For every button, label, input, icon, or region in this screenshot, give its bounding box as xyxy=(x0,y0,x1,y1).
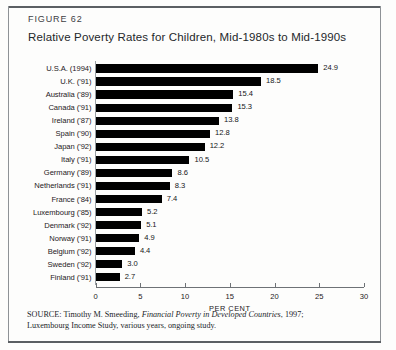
bar-value-label: 18.5 xyxy=(266,76,281,85)
bar-value-label: 24.9 xyxy=(323,63,338,72)
bar xyxy=(96,221,142,229)
category-label: Belgium ('92) xyxy=(20,247,92,256)
source-prefix: SOURCE: Timothy M. Smeeding, xyxy=(27,310,142,319)
bar-value-label: 15.4 xyxy=(238,89,253,98)
x-axis-tick-label: 30 xyxy=(350,292,378,301)
bar-row: 10.5 xyxy=(96,153,365,166)
category-label: Spain ('90) xyxy=(20,129,92,138)
bar-row: 8.3 xyxy=(96,179,365,192)
category-label: Finland ('91) xyxy=(20,273,92,282)
bar xyxy=(96,195,162,203)
category-label: U.S.A. (1994) xyxy=(20,64,92,73)
bar-row: 4.4 xyxy=(96,245,365,258)
bar xyxy=(96,208,143,216)
bar xyxy=(96,260,123,268)
x-axis-tick-label: 15 xyxy=(216,292,244,301)
bar xyxy=(96,182,170,190)
x-axis-tick xyxy=(275,283,276,287)
x-axis-tick-label: 10 xyxy=(171,292,199,301)
bar xyxy=(96,273,120,281)
bar xyxy=(96,104,233,112)
bar-value-label: 7.4 xyxy=(167,194,177,203)
bar-row: 5.1 xyxy=(96,219,365,232)
category-label: Australia ('89) xyxy=(20,90,92,99)
x-axis-tick-label: 25 xyxy=(305,292,333,301)
bar-row: 13.8 xyxy=(96,114,365,127)
bar-row: 18.5 xyxy=(96,75,365,88)
bar xyxy=(96,117,220,125)
x-axis-tick-label: 20 xyxy=(261,292,289,301)
x-axis-line xyxy=(96,287,365,288)
bar-chart-plot: PER CENT U.S.A. (1994)24.9U.K. ('91)18.5… xyxy=(0,0,396,350)
category-label: Canada ('91) xyxy=(20,103,92,112)
bar xyxy=(96,64,319,72)
figure-container: FIGURE 62 Relative Poverty Rates for Chi… xyxy=(0,0,396,350)
bar-value-label: 12.8 xyxy=(215,128,230,137)
bar-value-label: 8.6 xyxy=(177,168,187,177)
bar-value-label: 4.9 xyxy=(144,233,154,242)
bar-row: 24.9 xyxy=(96,62,365,75)
bar xyxy=(96,90,234,98)
category-label: U.K. ('91) xyxy=(20,77,92,86)
bar xyxy=(96,234,140,242)
bar-row: 3.0 xyxy=(96,258,365,271)
bar-row: 12.8 xyxy=(96,127,365,140)
x-axis-tick xyxy=(96,283,97,287)
x-axis-tick xyxy=(140,283,141,287)
category-label: Japan ('92) xyxy=(20,142,92,151)
bar xyxy=(96,143,205,151)
bar xyxy=(96,77,262,85)
category-label: Italy ('91) xyxy=(20,155,92,164)
bar xyxy=(96,156,190,164)
bar-row: 4.9 xyxy=(96,232,365,245)
x-axis-tick xyxy=(319,283,320,287)
bar-row: 8.6 xyxy=(96,166,365,179)
category-label: Sweden ('92) xyxy=(20,260,92,269)
source-suffix: , 1997; xyxy=(281,310,304,319)
x-axis-tick xyxy=(230,283,231,287)
category-label: Norway ('91) xyxy=(20,234,92,243)
source-line-2: Luxembourg Income Study, various years, … xyxy=(27,321,216,330)
bar xyxy=(96,130,211,138)
x-axis-tick xyxy=(364,283,365,287)
category-label: Denmark ('92) xyxy=(20,221,92,230)
bar-row: 15.3 xyxy=(96,101,365,114)
bar-row: 5.2 xyxy=(96,206,365,219)
bar-row: 7.4 xyxy=(96,193,365,206)
source-italic-title: Financial Poverty in Developed Countries xyxy=(142,310,281,319)
category-label: Ireland ('87) xyxy=(20,116,92,125)
bar xyxy=(96,169,173,177)
bar-value-label: 15.3 xyxy=(237,102,252,111)
bar-value-label: 5.2 xyxy=(147,207,157,216)
bar-value-label: 12.2 xyxy=(210,141,225,150)
source-note: SOURCE: Timothy M. Smeeding, Financial P… xyxy=(27,309,367,331)
bar-value-label: 3.0 xyxy=(127,259,137,268)
x-axis-tick-label: 0 xyxy=(82,292,110,301)
bar-value-label: 13.8 xyxy=(224,115,239,124)
bar-value-label: 2.7 xyxy=(125,272,135,281)
bar-row: 12.2 xyxy=(96,140,365,153)
category-label: Luxembourg ('85) xyxy=(20,208,92,217)
x-axis-tick-label: 5 xyxy=(126,292,154,301)
bar-value-label: 8.3 xyxy=(175,181,185,190)
category-label: Germany ('89) xyxy=(20,168,92,177)
x-axis-tick xyxy=(185,283,186,287)
bar-row: 15.4 xyxy=(96,88,365,101)
category-label: Netherlands ('91) xyxy=(20,181,92,190)
bar-value-label: 4.4 xyxy=(140,246,150,255)
bar-value-label: 5.1 xyxy=(146,220,156,229)
bar xyxy=(96,247,135,255)
bar-value-label: 10.5 xyxy=(194,155,209,164)
category-label: France ('84) xyxy=(20,195,92,204)
